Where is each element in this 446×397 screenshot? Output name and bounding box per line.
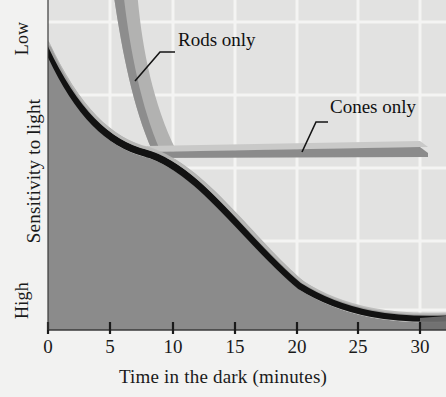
- x-tick-label-10: 10: [153, 336, 193, 358]
- curve-slab-end-shadow: [420, 316, 446, 330]
- x-tick-label-15: 15: [215, 336, 255, 358]
- x-axis-title: Time in the dark (minutes): [0, 366, 446, 388]
- cones-only-annotation: Cones only: [330, 96, 416, 118]
- y-axis-high-label: High: [12, 274, 33, 328]
- y-axis-title: Sensitivity to light: [23, 71, 45, 271]
- x-tick-label-5: 5: [90, 336, 130, 358]
- y-axis-low-label: Low: [12, 14, 33, 64]
- x-tick-label-25: 25: [338, 336, 378, 358]
- x-tick-label-30: 30: [400, 336, 440, 358]
- x-tick-label-20: 20: [277, 336, 317, 358]
- rods-only-annotation: Rods only: [178, 29, 256, 51]
- dark-adaptation-chart: Sensitivity to light Low High 0 5 10 15 …: [0, 0, 446, 397]
- x-tick-label-0: 0: [28, 336, 68, 358]
